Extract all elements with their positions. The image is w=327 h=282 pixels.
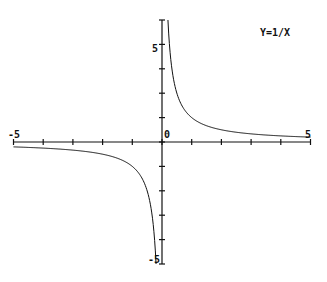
plot-canvas: Y=1/X -5 5 0 5 -5 — [0, 0, 327, 282]
curve-negative-branch — [14, 147, 157, 264]
chart-title: Y=1/X — [260, 27, 290, 38]
axes — [14, 20, 311, 264]
y-min-label: -5 — [148, 254, 160, 265]
x-min-label: -5 — [8, 129, 20, 140]
x-max-label: 5 — [305, 129, 311, 140]
origin-label: 0 — [164, 129, 170, 140]
y-max-label: 5 — [152, 43, 158, 54]
